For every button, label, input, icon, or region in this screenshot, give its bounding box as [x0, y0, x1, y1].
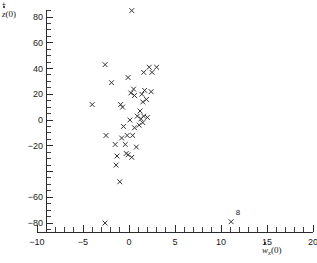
y-tick-label: −60: [28, 192, 43, 202]
data-point-marker: [131, 87, 136, 92]
data-point-marker: [145, 115, 150, 120]
data-point-marker: [134, 145, 139, 150]
data-point-marker: [229, 219, 234, 224]
data-point-marker: [115, 154, 120, 159]
data-point-marker: [139, 92, 144, 97]
data-point-marker: [129, 8, 134, 13]
scatter-plot-figure: −10−505101520 806040200−20−60−80 8 z+(0)…: [0, 0, 317, 263]
y-tick-label: 60: [33, 38, 43, 48]
y-tick-label: −80: [28, 218, 43, 228]
data-point-marker: [138, 109, 143, 114]
x-tick-label: 20: [308, 237, 317, 247]
scatter-data-points: [90, 8, 234, 225]
y-axis-major-ticks: [46, 17, 53, 223]
data-point-marker: [142, 88, 147, 93]
data-point-marker: [113, 142, 118, 147]
data-point-marker: [114, 163, 119, 168]
y-axis-symbol: z+: [2, 10, 6, 19]
point-annotation-label: 8: [236, 208, 241, 217]
y-tick-label: 80: [33, 12, 43, 22]
plot-canvas: −10−505101520 806040200−20−60−80 8: [0, 0, 317, 263]
data-point-marker: [154, 65, 159, 70]
data-point-marker: [147, 65, 152, 70]
data-point-marker: [130, 133, 135, 138]
point-annotations: 8: [236, 208, 241, 217]
data-point-marker: [150, 70, 155, 75]
x-tick-label: 10: [216, 237, 226, 247]
y-axis-tick-labels: 806040200−20−60−80: [28, 12, 43, 228]
data-point-marker: [118, 102, 123, 107]
x-axis-symbol: w: [262, 246, 268, 255]
x-axis-argument: (0): [271, 245, 282, 255]
x-tick-label: −10: [29, 237, 44, 247]
data-point-marker: [104, 133, 109, 138]
data-point-marker: [109, 80, 114, 85]
x-tick-label: 5: [172, 237, 177, 247]
data-point-marker: [120, 105, 125, 110]
data-point-marker: [132, 125, 137, 130]
data-point-marker: [149, 89, 154, 94]
data-point-marker: [123, 142, 128, 147]
y-axis-argument: (0): [6, 9, 17, 19]
y-tick-label: −20: [28, 141, 43, 151]
x-tick-label: 0: [126, 237, 131, 247]
data-point-marker: [126, 75, 131, 80]
y-plus-superscript: +: [2, 1, 6, 8]
data-point-marker: [103, 62, 108, 67]
data-point-marker: [90, 102, 95, 107]
data-point-marker: [141, 70, 146, 75]
data-point-marker: [125, 133, 130, 138]
x-axis-major-ticks: [37, 225, 313, 232]
data-point-marker: [121, 124, 126, 129]
y-axis-label: z+(0): [2, 10, 16, 19]
y-tick-label: 20: [33, 89, 43, 99]
data-point-marker: [128, 118, 133, 123]
data-point-marker: [103, 221, 108, 226]
x-axis-label: wx(0): [262, 246, 281, 257]
x-dot-accent-icon: [264, 242, 266, 244]
y-tick-label: 0: [38, 115, 43, 125]
data-point-marker: [117, 179, 122, 184]
y-tick-label: 40: [33, 64, 43, 74]
x-tick-label: −5: [78, 237, 88, 247]
data-point-marker: [119, 136, 124, 141]
